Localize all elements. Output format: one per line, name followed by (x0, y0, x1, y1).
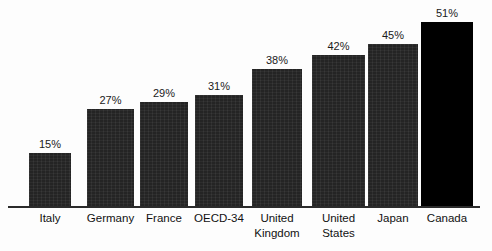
bar-value-label: 31% (208, 80, 230, 93)
bar-value-label: 38% (266, 54, 288, 67)
plot-area: 15%27%29%31%38%42%45%51% (0, 0, 492, 207)
bar (312, 55, 365, 207)
bar (29, 153, 71, 207)
bar (195, 95, 243, 207)
bar-group: 29% (140, 0, 188, 207)
bar-group: 42% (312, 0, 365, 207)
bar-chart: 15%27%29%31%38%42%45%51% ItalyGermanyFra… (0, 0, 492, 251)
x-axis-tick-labels: ItalyGermanyFranceOECD-34United KingdomU… (0, 211, 492, 251)
bar-value-label: 29% (153, 87, 175, 100)
bar-value-label: 45% (382, 29, 404, 42)
x-axis-tick-label: Italy (19, 211, 81, 226)
bar-value-label: 51% (436, 7, 458, 20)
bar-value-label: 27% (99, 94, 121, 107)
bar-group: 31% (195, 0, 243, 207)
bar-highlighted (421, 22, 473, 207)
x-axis-tick-label: Canada (411, 211, 483, 226)
bar-value-label: 15% (39, 138, 61, 151)
bar-group: 45% (368, 0, 418, 207)
bar-group: 38% (252, 0, 302, 207)
x-axis-line (8, 206, 480, 208)
bar (368, 44, 418, 207)
bar (140, 102, 188, 207)
bar-value-label: 42% (327, 40, 349, 53)
bar-group: 27% (87, 0, 134, 207)
bar (252, 69, 302, 207)
bar (87, 109, 134, 207)
bar-group: 15% (29, 0, 71, 207)
bar-group: 51% (421, 0, 473, 207)
